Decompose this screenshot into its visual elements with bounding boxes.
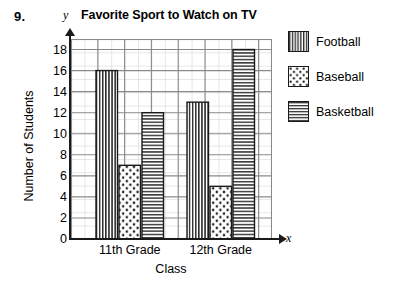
plot-area xyxy=(71,39,272,239)
dot-pattern-swatch xyxy=(288,66,309,87)
bar-12th-grade-basketball xyxy=(233,50,255,239)
legend-label: Football xyxy=(316,35,360,49)
legend-item-football: Football xyxy=(288,30,360,53)
bar-11th-grade-football xyxy=(96,71,118,239)
y-tick-label-6: 6 xyxy=(7,170,67,182)
bar-chart-figure: 9. Favorite Sport to Watch on TV y x Num… xyxy=(0,0,394,284)
chart-title: Favorite Sport to Watch on TV xyxy=(81,8,257,22)
legend-item-baseball: Baseball xyxy=(288,65,364,88)
y-tick-label-18: 18 xyxy=(7,44,67,56)
y-axis-arrow-icon xyxy=(65,28,75,36)
y-tick-label-16: 16 xyxy=(7,65,67,77)
legend-label: Baseball xyxy=(316,70,364,84)
y-axis-line xyxy=(69,33,71,240)
y-tick-label-0: 0 xyxy=(7,233,67,245)
y-tick-label-8: 8 xyxy=(7,149,67,161)
vertical-stripe-swatch xyxy=(288,31,309,52)
bar-11th-grade-baseball xyxy=(119,165,141,239)
y-tick-label-10: 10 xyxy=(7,128,67,140)
x-tick-label-11th-grade: 11th Grade xyxy=(90,243,170,257)
bar-11th-grade-basketball xyxy=(142,113,164,239)
x-axis-line xyxy=(69,238,284,240)
chart-bars xyxy=(71,39,272,239)
y-tick-label-4: 4 xyxy=(7,191,67,203)
legend-label: Basketball xyxy=(316,105,374,119)
x-axis-arrow-icon xyxy=(279,234,287,244)
bar-12th-grade-baseball xyxy=(210,186,232,239)
x-axis-title: Class xyxy=(71,262,271,276)
horizontal-stripe-swatch xyxy=(288,101,309,122)
legend-item-basketball: Basketball xyxy=(288,100,374,123)
y-tick-label-12: 12 xyxy=(7,107,67,119)
x-tick-label-12th-grade: 12th Grade xyxy=(181,243,261,257)
bar-12th-grade-football xyxy=(187,102,209,239)
y-tick-label-2: 2 xyxy=(7,212,67,224)
y-axis-tick-labels: 024681012141618 xyxy=(2,0,67,284)
y-tick-label-14: 14 xyxy=(7,86,67,98)
